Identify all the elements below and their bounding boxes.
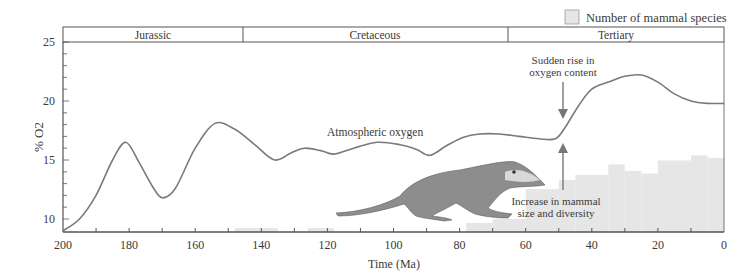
legend-label: Number of mammal species (586, 11, 727, 25)
increase-text-1: Increase in mammal (511, 195, 600, 207)
period-cretaceous: Cretaceous (349, 29, 401, 41)
legend-swatch (565, 10, 579, 24)
y-ticks: 25201510 (43, 35, 69, 226)
x-axis-label: Time (Ma) (368, 257, 420, 271)
axes: 25201510 200180160140120100806040200 Tim… (31, 35, 727, 271)
mammal-bar (708, 158, 725, 232)
y-axis-label: % O2 (31, 122, 46, 152)
mammal-bar (625, 171, 642, 232)
x-tick-label: 20 (652, 238, 664, 252)
sudden-rise-text-2: oxygen content (529, 66, 597, 78)
mammal-bar (466, 223, 492, 232)
y-tick-label: 15 (43, 153, 55, 167)
period-jurassic: Jurassic (135, 29, 171, 41)
x-tick-label: 60 (520, 238, 532, 252)
x-tick-label: 40 (586, 238, 598, 252)
mammal-bar (641, 174, 658, 233)
y-tick-label: 20 (43, 94, 55, 108)
x-tick-label: 0 (721, 238, 727, 252)
increase-text-2: size and diversity (518, 207, 595, 219)
mammal-illustration (336, 162, 545, 221)
x-tick-label: 80 (454, 238, 466, 252)
period-band: Jurassic Cretaceous Tertiary (63, 27, 724, 42)
x-tick-label: 140 (252, 238, 270, 252)
curve-label: Atmospheric oxygen (327, 126, 423, 139)
mammal-bar (608, 164, 625, 232)
mammal-bar (493, 219, 526, 232)
mammal-bar (658, 161, 691, 233)
x-tick-label: 160 (186, 238, 204, 252)
mammal-bar (691, 155, 708, 232)
x-tick-label: 120 (318, 238, 336, 252)
legend: Number of mammal species (565, 10, 727, 25)
y-tick-label: 25 (43, 35, 55, 49)
down-arrow-icon (558, 109, 568, 119)
y-tick-label: 10 (43, 212, 55, 226)
up-arrow-icon (558, 143, 568, 153)
oxygen-chart: Number of mammal species Jurassic Cretac… (0, 0, 754, 275)
period-tertiary: Tertiary (598, 29, 634, 42)
x-tick-label: 100 (385, 238, 403, 252)
x-tick-label: 180 (120, 238, 138, 252)
sudden-rise-text-1: Sudden rise in (532, 54, 595, 66)
x-tick-label: 200 (54, 238, 72, 252)
